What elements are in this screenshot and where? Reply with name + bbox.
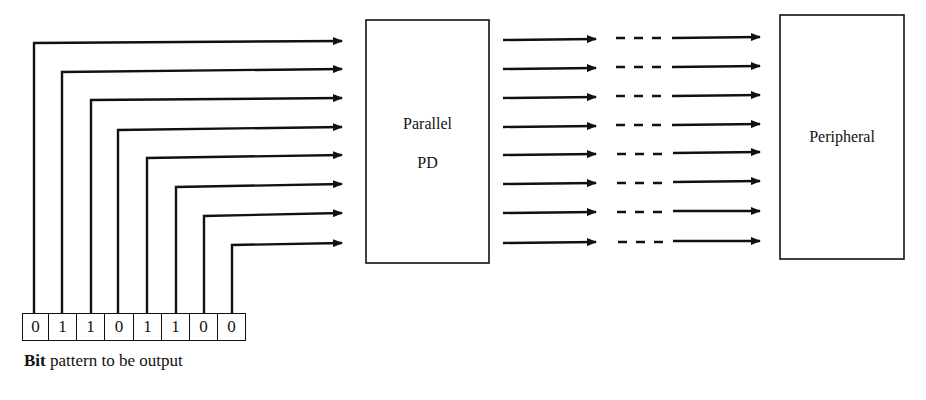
- parallel-pd-box: [366, 20, 489, 263]
- pd-box-label-line1: Parallel: [366, 115, 489, 133]
- caption-bold: Bit: [24, 351, 46, 370]
- bit-cell-0: 0: [22, 313, 49, 341]
- peripheral-input-arrows: [672, 37, 760, 241]
- bit-cell-1: 1: [48, 313, 77, 341]
- bit-cell-3: 0: [104, 313, 134, 341]
- bit-line-7: [232, 243, 342, 313]
- continuation-dashes: [616, 38, 663, 242]
- bit-input-lines: [34, 41, 342, 313]
- bit-cell-6: 0: [189, 313, 218, 341]
- bit-line-1: [62, 69, 342, 313]
- bit-line-0: [34, 41, 342, 313]
- bit-pattern-caption: Bit pattern to be output: [24, 351, 183, 371]
- bit-cell-7: 0: [217, 313, 246, 341]
- pd-box-label-line2: PD: [366, 154, 489, 172]
- caption-rest: pattern to be output: [46, 351, 183, 370]
- bit-cell-4: 1: [133, 313, 162, 341]
- bit-cell-5: 1: [161, 313, 190, 341]
- peripheral-box-label: Peripheral: [780, 128, 904, 146]
- pd-output-arrows: [503, 39, 596, 243]
- bit-line-6: [204, 213, 342, 313]
- bit-line-5: [176, 184, 342, 313]
- bit-cell-2: 1: [76, 313, 105, 341]
